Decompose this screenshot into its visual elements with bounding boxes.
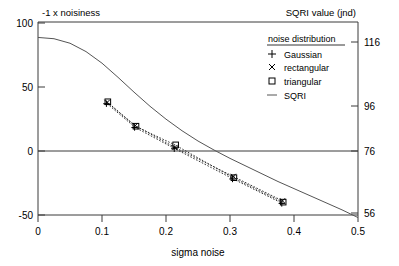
- x-tick-label-0.1: 0.1: [95, 226, 109, 237]
- right-tick-label-96: 96: [364, 101, 376, 112]
- x-tick-label-0.5: 0.5: [351, 226, 365, 237]
- legend-title: noise distribution: [268, 34, 336, 44]
- right-axis-tick-labels: 116 96 76 56: [364, 37, 380, 219]
- left-tick-label-minus50: -50: [19, 210, 34, 221]
- x-tick-label-0.4: 0.4: [287, 226, 301, 237]
- x-axis-tick-labels: 0 0.1 0.2 0.3 0.4 0.5: [35, 226, 365, 237]
- chart-figure: -1 x noisiness SQRI value (jnd) 100 50 0…: [0, 0, 399, 266]
- x-tick-label-0.2: 0.2: [159, 226, 173, 237]
- x-axis-ticks: [38, 215, 358, 222]
- legend-label-gaussian: Gaussian: [284, 50, 322, 60]
- right-tick-label-76: 76: [364, 146, 376, 157]
- legend-label-rectangular: rectangular: [284, 63, 329, 73]
- x-tick-label-0: 0: [35, 226, 41, 237]
- chart-canvas: -1 x noisiness SQRI value (jnd) 100 50 0…: [0, 0, 399, 266]
- top-left-axis-label: -1 x noisiness: [42, 7, 100, 18]
- left-tick-label-50: 50: [22, 82, 34, 93]
- right-tick-label-116: 116: [364, 37, 380, 48]
- top-right-axis-label: SQRI value (jnd): [286, 7, 356, 18]
- right-tick-label-56: 56: [364, 208, 376, 219]
- left-axis-tick-labels: 100 50 0 -50: [16, 18, 33, 221]
- x-axis-title: sigma noise: [171, 247, 225, 258]
- left-tick-label-0: 0: [27, 146, 33, 157]
- left-tick-label-100: 100: [16, 18, 33, 29]
- legend-label-sqri: SQRI: [284, 91, 306, 101]
- legend-label-triangular: triangular: [284, 77, 322, 87]
- x-tick-label-0.3: 0.3: [223, 226, 237, 237]
